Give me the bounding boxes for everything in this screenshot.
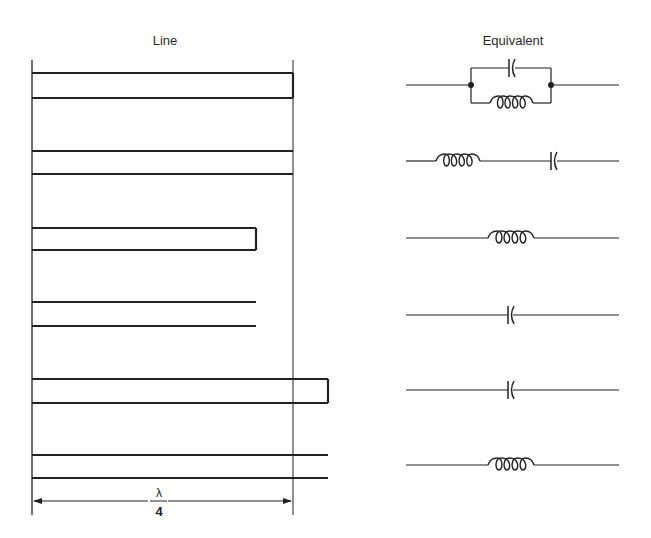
line-stub-3-shorted — [32, 228, 256, 250]
arrowhead-right-icon — [283, 498, 292, 504]
line-stub-2-open — [32, 151, 293, 174]
equivalent-circuits — [406, 59, 619, 470]
dimension-denominator: 4 — [149, 504, 169, 519]
transmission-line-diagram — [0, 0, 651, 538]
inductor-icon — [490, 96, 533, 108]
line-stub-1-shorted — [32, 73, 293, 98]
equivalent-4-capacitor — [406, 306, 619, 324]
dimension-numerator: λ — [149, 486, 169, 500]
equivalent-2-series-LC — [406, 152, 619, 170]
line-stub-5-shorted — [32, 379, 328, 403]
capacitor-icon — [509, 59, 515, 77]
equivalent-1-parallel-LC — [406, 59, 619, 108]
line-stub-6-open — [32, 455, 328, 478]
reference-lines — [32, 60, 293, 515]
equivalent-3-inductor — [406, 231, 619, 243]
capacitor-icon — [551, 152, 557, 170]
inductor-icon — [488, 458, 534, 470]
capacitor-plate-curved — [513, 59, 516, 77]
equivalent-5-capacitor — [406, 381, 619, 399]
line-stub-4-open — [32, 302, 256, 326]
inductor-icon — [488, 231, 534, 243]
capacitor-plate-curved — [555, 152, 558, 170]
equivalent-6-inductor — [406, 458, 619, 470]
arrowhead-left-icon — [33, 498, 42, 504]
line-stubs — [32, 73, 328, 478]
diagram-canvas: Line Equivalent λ 4 — [0, 0, 651, 538]
inductor-icon — [436, 154, 480, 166]
